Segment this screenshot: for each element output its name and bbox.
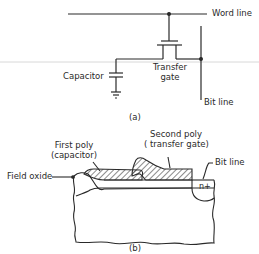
cross-section — [52, 157, 215, 245]
second-poly-label-line2: ( transfer gate) — [144, 140, 208, 149]
second-poly-label-line1: Second poly — [146, 130, 206, 139]
n-plus-label: n+ — [199, 183, 211, 191]
first-poly-label-line1: First poly — [50, 141, 98, 150]
leader-second-poly — [168, 157, 170, 168]
bit-line-label: Bit line — [204, 98, 234, 107]
circuit-schematic — [68, 13, 207, 100]
dram-cell-diagram — [0, 0, 259, 254]
transfer-gate-label-line2: gate — [152, 73, 188, 82]
transfer-gate-label-line1: Transfer — [152, 63, 188, 72]
field-oxide-bottom — [76, 188, 100, 196]
figure-b-caption: (b) — [129, 244, 141, 253]
capacitor-label: Capacitor — [63, 72, 104, 81]
leader-bit-line — [203, 163, 213, 179]
bit-line-label-b: Bit line — [215, 158, 245, 167]
word-line-label: Word line — [212, 9, 252, 18]
substrate-outline — [73, 176, 214, 245]
field-oxide-dot — [72, 176, 75, 179]
field-oxide-label: Field oxide — [7, 172, 52, 181]
first-poly-label-line2: (capacitor) — [50, 151, 98, 160]
bit-line-junction-dot — [200, 58, 203, 61]
ground-icon — [111, 92, 121, 98]
figure-a-caption: (a) — [129, 113, 141, 122]
